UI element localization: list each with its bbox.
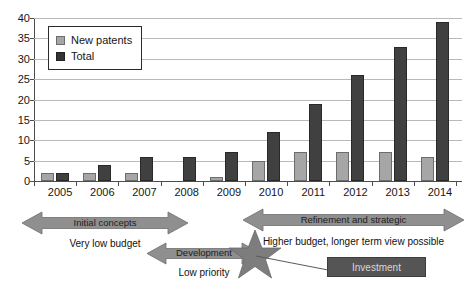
bar-new-patents: [252, 161, 265, 181]
bar-total: [140, 157, 153, 181]
y-tick-mark: [30, 18, 34, 19]
double-arrow-shape: [22, 210, 188, 236]
bar-total: [351, 75, 364, 181]
investment-box: Investment: [327, 257, 426, 277]
bar-total: [225, 152, 238, 181]
investment-leader-line: [256, 254, 328, 272]
bar-new-patents: [421, 157, 434, 181]
bar-total: [309, 104, 322, 181]
y-tick-label: 40: [4, 13, 30, 24]
bar-total: [98, 165, 111, 181]
bar-group: [419, 18, 461, 181]
x-tick-label: 2012: [334, 186, 378, 198]
legend-label-total: Total: [71, 50, 94, 62]
legend-label-new-patents: New patents: [71, 34, 132, 46]
bar-group: [292, 18, 334, 181]
x-tick-label: 2010: [249, 186, 293, 198]
bar-group: [208, 18, 250, 181]
bar-group: [250, 18, 292, 181]
y-tick-label: 20: [4, 95, 30, 106]
x-tick-label: 2009: [207, 186, 251, 198]
y-tick-mark: [30, 79, 34, 80]
x-tick-label: 2013: [376, 186, 420, 198]
y-tick-label: 10: [4, 135, 30, 146]
y-tick-mark: [30, 120, 34, 121]
bar-group: [377, 18, 419, 181]
bar-new-patents: [125, 173, 138, 181]
y-tick-mark: [30, 38, 34, 39]
bar-group: [334, 18, 376, 181]
x-axis-line: [34, 181, 462, 182]
bar-total: [183, 157, 196, 181]
y-tick-mark: [30, 100, 34, 101]
bar-total: [436, 22, 449, 181]
y-tick-label: 5: [4, 156, 30, 167]
y-tick-label: 0: [4, 176, 30, 187]
bar-total: [394, 47, 407, 181]
legend-item-new-patents: New patents: [56, 32, 132, 48]
x-tick-label: 2011: [291, 186, 335, 198]
y-tick-mark: [30, 140, 34, 141]
x-tick-label: 2005: [38, 186, 82, 198]
bar-chart: 0510152025303540 20052006200720082009201…: [0, 0, 471, 198]
bar-total: [56, 173, 69, 181]
legend-swatch-total: [56, 52, 65, 61]
x-tick-mark: [34, 182, 35, 186]
bar-new-patents: [379, 152, 392, 181]
bar-new-patents: [336, 152, 349, 181]
chart-legend: New patents Total: [48, 26, 142, 70]
bar-group: [166, 18, 208, 181]
bar-new-patents: [41, 173, 54, 181]
y-axis-labels: 0510152025303540: [0, 18, 30, 182]
y-tick-label: 15: [4, 115, 30, 126]
x-tick-label: 2014: [418, 186, 462, 198]
bar-new-patents: [83, 173, 96, 181]
investment-label: Investment: [352, 262, 401, 273]
bar-new-patents: [294, 152, 307, 181]
legend-item-total: Total: [56, 48, 132, 64]
y-tick-label: 30: [4, 54, 30, 65]
legend-swatch-new-patents: [56, 36, 65, 45]
x-tick-label: 2007: [123, 186, 167, 198]
timeline-annotations: Initial concepts Very low budget Refinem…: [0, 198, 471, 294]
y-tick-mark: [30, 161, 34, 162]
chart-figure: 0510152025303540 20052006200720082009201…: [0, 0, 471, 294]
y-tick-label: 35: [4, 33, 30, 44]
x-tick-label: 2006: [80, 186, 124, 198]
y-tick-label: 25: [4, 74, 30, 85]
bar-total: [267, 132, 280, 181]
x-tick-label: 2008: [165, 186, 209, 198]
y-tick-mark: [30, 59, 34, 60]
leader-line-shape: [256, 254, 328, 272]
phase-initial-concepts-arrow: Initial concepts: [22, 210, 188, 236]
bar-new-patents: [210, 177, 223, 181]
